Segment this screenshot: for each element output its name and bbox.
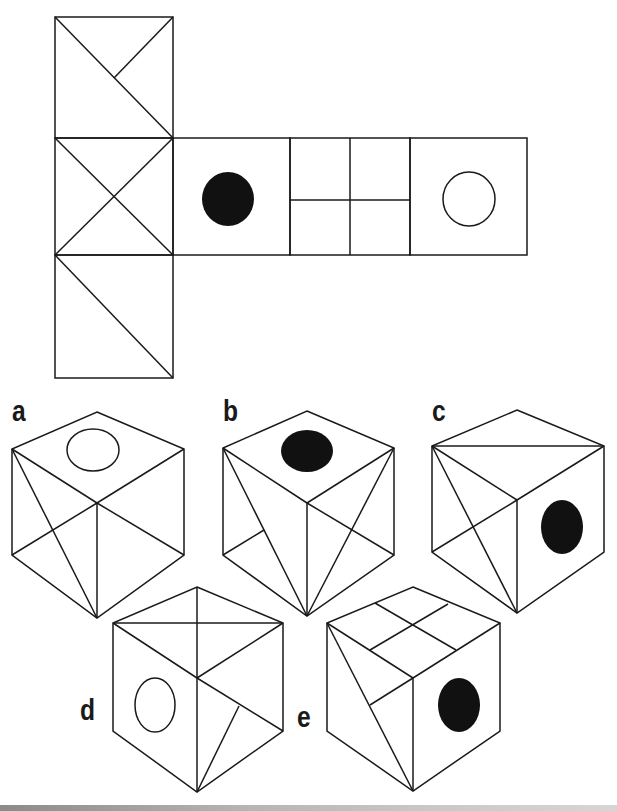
option-e-label: e: [297, 702, 311, 732]
option-c-cube[interactable]: [432, 410, 604, 613]
option-c-label: c: [432, 396, 446, 426]
option-e-cube[interactable]: [327, 587, 500, 791]
cube-net: [55, 17, 527, 378]
option-d-cube[interactable]: [113, 587, 283, 792]
option-a-label: a: [12, 396, 26, 426]
net-face-filled-circle: [173, 138, 290, 255]
net-face-col-middle: [55, 138, 173, 255]
option-a-cube[interactable]: [12, 412, 184, 618]
net-face-col-top: [55, 17, 173, 138]
net-face-open-circle: [410, 138, 527, 255]
bottom-divider-bar: [0, 805, 617, 811]
net-face-col-bottom: [55, 255, 173, 378]
option-b-cube[interactable]: [223, 411, 394, 616]
option-d-label: d: [80, 695, 95, 725]
option-b-label: b: [223, 396, 238, 426]
cube-puzzle-diagram: [0, 0, 617, 811]
net-face-quadrants: [290, 138, 410, 255]
